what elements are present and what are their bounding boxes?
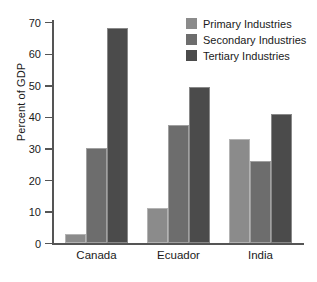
bar-group (65, 22, 128, 243)
legend-swatch-icon (186, 50, 197, 61)
x-axis-line (52, 243, 304, 245)
x-axis-label: India (229, 249, 292, 261)
bar (271, 114, 292, 243)
y-tick-label: 70 (29, 17, 41, 29)
bar (189, 87, 210, 243)
legend-label: Primary Industries (203, 18, 292, 30)
bar (250, 161, 271, 243)
legend-item[interactable]: Tertiary Industries (186, 48, 306, 63)
bar (147, 208, 168, 243)
legend-label: Tertiary Industries (203, 50, 290, 62)
y-tick-label: 60 (29, 48, 41, 60)
y-tick-label: 10 (29, 206, 41, 218)
legend-swatch-icon (186, 18, 197, 29)
y-tick-label: 0 (35, 238, 41, 250)
bar (86, 148, 107, 243)
legend-item[interactable]: Secondary Industries (186, 32, 306, 47)
legend: Primary IndustriesSecondary IndustriesTe… (186, 16, 306, 64)
bar (65, 234, 86, 243)
y-axis-title: Percent of GDP (15, 37, 27, 167)
bar (168, 125, 189, 243)
y-tick-label: 20 (29, 175, 41, 187)
bar (229, 139, 250, 243)
legend-item[interactable]: Primary Industries (186, 16, 306, 31)
y-tick: 0 (45, 243, 53, 244)
bar (107, 28, 128, 243)
y-tick-label: 40 (29, 111, 41, 123)
y-tick-label: 30 (29, 143, 41, 155)
y-tick-label: 50 (29, 80, 41, 92)
x-axis-label: Ecuador (147, 249, 210, 261)
legend-label: Secondary Industries (203, 34, 306, 46)
x-axis-label: Canada (65, 249, 128, 261)
legend-swatch-icon (186, 34, 197, 45)
bar-chart: Percent of GDP 010203040506070 CanadaEcu… (0, 0, 317, 282)
